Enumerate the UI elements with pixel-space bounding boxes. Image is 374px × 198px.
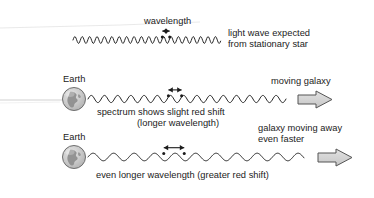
even-longer-wavelength-caption: even longer wavelength (greater red shif… — [96, 170, 269, 181]
earth-label-middle: Earth — [63, 74, 85, 85]
wavelength-label: wavelength — [144, 16, 191, 27]
even-faster-label: even faster — [258, 134, 304, 145]
earth-globe-middle — [63, 88, 86, 111]
moving-galaxy-label: moving galaxy — [271, 76, 331, 87]
galaxy-faster-arrow — [318, 149, 352, 166]
moving-galaxy-arrow — [298, 91, 332, 108]
scan-artifact-lines — [0, 22, 200, 103]
longer-wavelength-caption: (longer wavelength) — [137, 118, 219, 129]
light-wave-expected-label: light wave expected — [228, 28, 310, 39]
wave-stationary-star — [73, 37, 221, 44]
diagram-graphics-layer — [0, 0, 374, 198]
galaxy-moving-away-label: galaxy moving away — [258, 123, 342, 134]
slight-red-shift-caption: spectrum shows slight red shift — [97, 107, 225, 118]
earth-globe-bottom — [63, 146, 86, 169]
wavelength-marker-stationary — [161, 29, 171, 39]
wave-greater-redshift — [88, 153, 304, 161]
from-stationary-star-label: from stationary star — [228, 39, 308, 50]
redshift-diagram: wavelength light wave expected from stat… — [0, 0, 374, 198]
earth-label-bottom: Earth — [63, 132, 85, 143]
wavelength-marker-slight — [167, 87, 183, 97]
wave-slight-redshift — [88, 95, 286, 102]
